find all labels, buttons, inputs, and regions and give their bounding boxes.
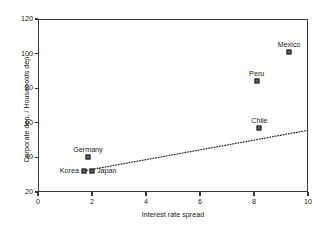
x-tick-mark [307,192,308,196]
data-point-label: Germany [73,146,103,153]
y-tick-label: 40 [25,154,33,161]
x-tick-label: 6 [198,198,202,205]
data-point-label: Chile [251,117,267,124]
x-tick-mark [199,192,200,196]
data-point-marker[interactable] [254,79,259,84]
y-tick-label: 100 [21,50,33,57]
data-point-label: Mexico [278,41,301,48]
x-axis-label: Interest rate spread [38,211,308,218]
x-tick-label: 10 [304,198,312,205]
x-tick-label: 2 [90,198,94,205]
clipped-title-text [0,0,325,4]
data-point-label: Japan [97,168,117,175]
x-tick-label: 8 [252,198,256,205]
data-point-marker[interactable] [257,125,262,130]
data-point-label: Peru [249,70,264,77]
y-tick-label: 60 [25,119,33,126]
data-point-marker[interactable] [85,155,90,160]
x-tick-label: 4 [144,198,148,205]
y-tick-label: 20 [25,188,33,195]
scatter-chart-figure: Corporate dep. / Households dep. Interes… [0,0,325,226]
x-tick-label: 0 [36,198,40,205]
data-point-marker[interactable] [81,169,86,174]
y-tick-label: 120 [21,15,33,22]
data-point-marker[interactable] [287,49,292,54]
data-point-marker[interactable] [90,169,95,174]
x-tick-mark [91,192,92,196]
x-tick-mark [253,192,254,196]
x-tick-mark [37,192,38,196]
y-tick-label: 80 [25,85,33,92]
data-point-label: Korea [60,168,79,175]
x-tick-mark [145,192,146,196]
